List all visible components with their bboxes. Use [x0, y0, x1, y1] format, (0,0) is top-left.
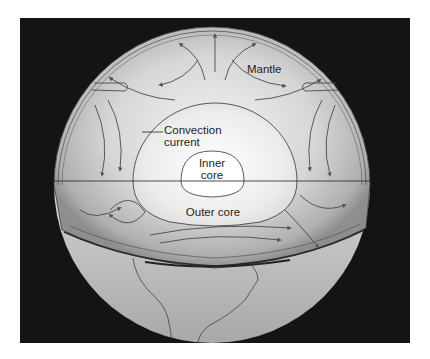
mantle-label: Mantle	[247, 64, 282, 75]
diagram-frame: Mantle Convection current Inner core Out…	[20, 18, 410, 343]
inner-core-label-line2: core	[192, 170, 232, 181]
inner-core-label-line1: Inner	[192, 158, 232, 169]
convection-current-label-line2: current	[164, 137, 200, 148]
outer-core-label: Outer core	[180, 207, 246, 218]
convection-current-label-line1: Convection	[164, 125, 222, 136]
